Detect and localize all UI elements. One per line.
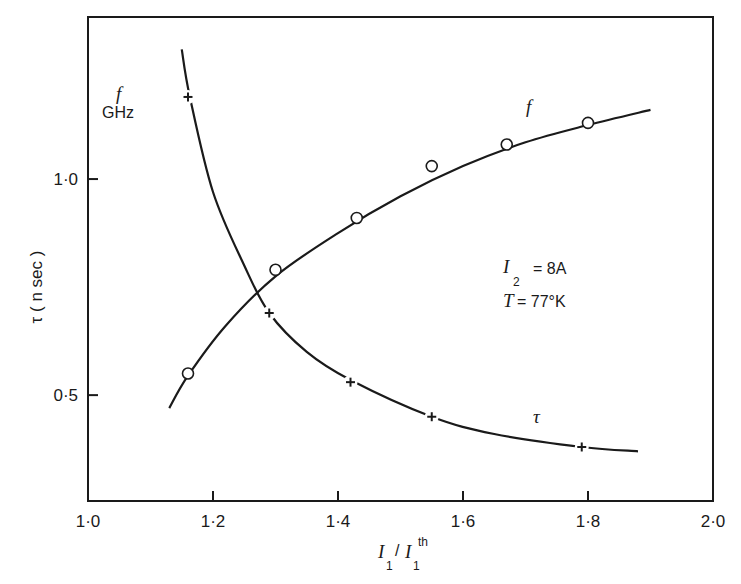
- chart-canvas: 0·51·0 1·01·21·41·61·82·0 τ ( n sec ) f …: [0, 0, 741, 584]
- secondary-axis-unit: GHz: [102, 104, 134, 121]
- plot-frame: [88, 17, 713, 501]
- f-point: [270, 264, 281, 275]
- x-tick-label: 1·6: [451, 512, 476, 531]
- svg-text:/: /: [395, 542, 400, 559]
- f-curve-label: f: [526, 96, 534, 117]
- f-point: [426, 161, 437, 172]
- x-tick-label: 2·0: [701, 512, 726, 531]
- y-axis-ticks: 0·51·0: [53, 170, 98, 405]
- f-point: [183, 368, 194, 379]
- f-point: [351, 212, 362, 223]
- svg-text:= 8A: = 8A: [533, 260, 567, 277]
- svg-text:1: 1: [413, 559, 420, 573]
- svg-text:I: I: [377, 541, 386, 562]
- x-axis-ticks: 1·01·21·41·61·82·0: [76, 491, 726, 531]
- svg-text:1: 1: [386, 559, 393, 573]
- annotation-current: I 2 = 8A: [502, 256, 567, 289]
- svg-text:T: T: [503, 290, 515, 311]
- y-tick-label: 0·5: [53, 386, 78, 405]
- svg-text:I: I: [502, 256, 511, 277]
- svg-text:th: th: [418, 535, 428, 549]
- f-point: [583, 117, 594, 128]
- x-axis-label: I 1 / I 1 th: [377, 535, 428, 573]
- x-tick-label: 1·8: [576, 512, 601, 531]
- f-data-points: [183, 117, 594, 379]
- x-tick-label: 1·2: [201, 512, 226, 531]
- x-tick-label: 1·4: [326, 512, 351, 531]
- svg-text:2: 2: [513, 275, 520, 289]
- y-axis-label: τ ( n sec ): [27, 251, 46, 324]
- tau-curve: [182, 49, 638, 451]
- secondary-axis-symbol: f: [116, 83, 124, 104]
- annotation-temperature: T = 77°K: [503, 290, 566, 311]
- y-tick-label: 1·0: [53, 170, 78, 189]
- svg-text:I: I: [404, 541, 413, 562]
- svg-text:= 77°K: = 77°K: [517, 293, 566, 310]
- tau-curve-label: τ: [533, 406, 541, 427]
- f-point: [501, 139, 512, 150]
- x-tick-label: 1·0: [76, 512, 101, 531]
- tau-data-points: [181, 90, 589, 454]
